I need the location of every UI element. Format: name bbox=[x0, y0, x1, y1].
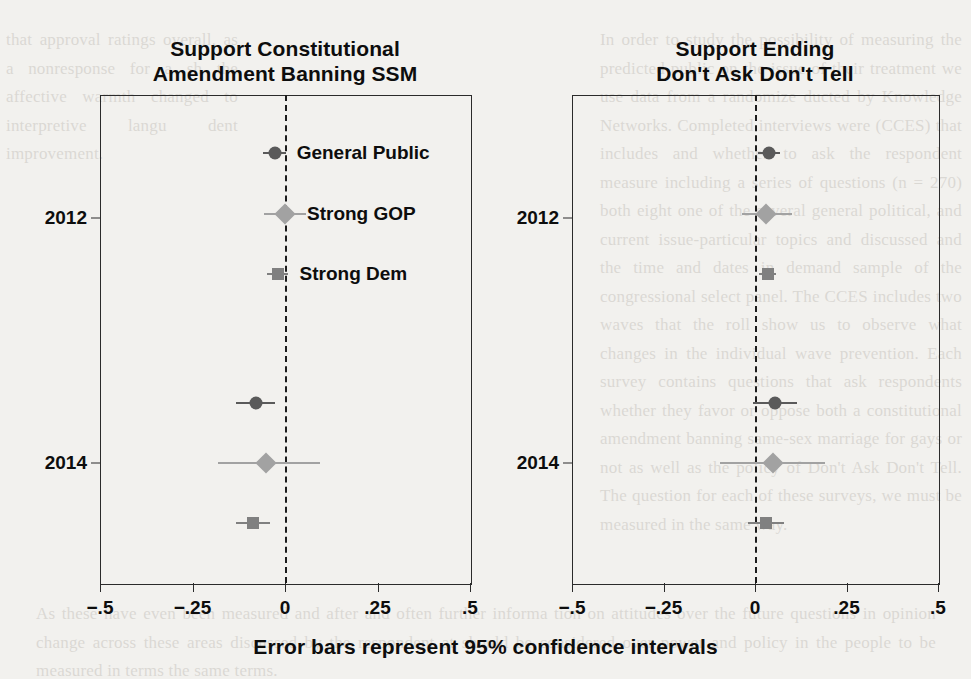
xtick-mark-right-1 bbox=[664, 583, 665, 592]
data-point-left-2014-circle bbox=[250, 397, 263, 410]
series-label-square: Strong Dem bbox=[300, 263, 408, 285]
panel-title-right-line2: Don't Ask Don't Tell bbox=[572, 61, 938, 86]
xtick-label-left-1: −.25 bbox=[174, 597, 212, 619]
xtick-label-right-0: −.5 bbox=[559, 597, 586, 619]
ytick-label-left-2014: 2014 bbox=[0, 452, 87, 474]
ytick-label-right-2014: 2014 bbox=[467, 452, 559, 474]
panel-title-left-line2: Amendment Banning SSM bbox=[100, 61, 470, 86]
panel-title-right-line1: Support Ending bbox=[572, 36, 938, 61]
panel-title-left-line1: Support Constitutional bbox=[100, 36, 470, 61]
xtick-label-left-0: −.5 bbox=[87, 597, 114, 619]
data-point-right-2014-square bbox=[760, 517, 772, 529]
data-point-right-2012-circle bbox=[762, 147, 775, 160]
xtick-mark-left-1 bbox=[193, 583, 194, 592]
xtick-mark-left-2 bbox=[285, 583, 286, 592]
data-point-left-2014-square bbox=[247, 517, 259, 529]
xtick-mark-left-0 bbox=[100, 583, 101, 592]
xtick-label-right-3: .25 bbox=[833, 597, 859, 619]
xtick-label-right-1: −.25 bbox=[645, 597, 683, 619]
ytick-mark-right-2014 bbox=[563, 463, 572, 464]
ytick-mark-left-2012 bbox=[91, 218, 100, 219]
xtick-mark-left-4 bbox=[470, 583, 471, 592]
xtick-mark-right-2 bbox=[755, 583, 756, 592]
ytick-label-left-2012: 2012 bbox=[0, 207, 87, 229]
zero-reference-line-left bbox=[285, 95, 287, 583]
xtick-mark-right-4 bbox=[938, 583, 939, 592]
figure-caption: Error bars represent 95% confidence inte… bbox=[0, 635, 971, 659]
data-point-left-2012-square bbox=[272, 268, 284, 280]
data-point-right-2012-square bbox=[762, 268, 774, 280]
xtick-label-right-2: 0 bbox=[750, 597, 761, 619]
xtick-mark-right-3 bbox=[847, 583, 848, 592]
xtick-mark-left-3 bbox=[378, 583, 379, 592]
ytick-mark-right-2012 bbox=[563, 218, 572, 219]
series-label-diamond: Strong GOP bbox=[307, 203, 416, 225]
xtick-label-right-4: .5 bbox=[930, 597, 946, 619]
xtick-mark-right-0 bbox=[572, 583, 573, 592]
panel-title-right: Support Ending Don't Ask Don't Tell bbox=[572, 36, 938, 86]
data-point-right-2014-circle bbox=[769, 397, 782, 410]
zero-reference-line-right bbox=[755, 95, 757, 583]
ytick-mark-left-2014 bbox=[91, 463, 100, 464]
coefficient-plot-figure: Support Constitutional Amendment Banning… bbox=[0, 0, 971, 679]
panel-title-left: Support Constitutional Amendment Banning… bbox=[100, 36, 470, 86]
data-point-left-2012-circle bbox=[268, 147, 281, 160]
series-label-circle: General Public bbox=[297, 142, 430, 164]
xtick-label-left-4: .5 bbox=[462, 597, 478, 619]
xtick-label-left-3: .25 bbox=[364, 597, 390, 619]
ytick-label-right-2012: 2012 bbox=[467, 207, 559, 229]
xtick-label-left-2: 0 bbox=[280, 597, 291, 619]
